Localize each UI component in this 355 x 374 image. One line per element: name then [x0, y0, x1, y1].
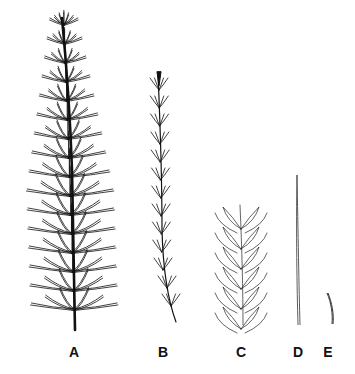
panel-c-drawing [215, 205, 267, 333]
panel-label-d: D [293, 344, 303, 360]
illustration [0, 0, 355, 374]
panel-label-c: C [236, 344, 246, 360]
panel-e-drawing [327, 293, 333, 324]
panel-d-drawing [297, 175, 300, 325]
botanical-figure: A B C D E [0, 0, 355, 374]
panel-label-b: B [158, 344, 168, 360]
panel-label-a: A [69, 344, 79, 360]
panel-a-drawing [26, 10, 117, 330]
panel-label-e: E [323, 344, 332, 360]
panel-b-drawing [150, 72, 180, 322]
